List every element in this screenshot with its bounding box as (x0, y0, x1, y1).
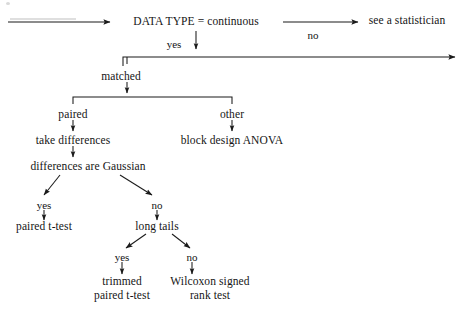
edge-label-no-long-tails: no (187, 251, 198, 263)
node-paired-t-test: paired t-test (16, 220, 72, 233)
node-data-type: DATA TYPE = continuous (133, 15, 258, 28)
edge-longtails-no (172, 234, 190, 248)
flowchart-edges: see a statistician --> down to bracket -… (0, 0, 467, 315)
node-paired: paired (58, 108, 87, 121)
node-block-design-anova: block design ANOVA (181, 134, 284, 147)
node-differences-are-gaussian: differences are Gaussian (30, 160, 145, 173)
edge-label-yes-long-tails: yes (115, 251, 130, 263)
edge-label-no-continuous: no (308, 29, 319, 41)
edge-label-yes-continuous: yes (167, 38, 182, 50)
node-trimmed-paired-t-test-line1: trimmed (94, 275, 150, 289)
edge-split-paired-other (73, 97, 232, 104)
edge-gaussian-no (120, 175, 152, 195)
node-wilcoxon-signed-rank-test-line2: rank test (170, 289, 249, 303)
edge-label-yes-gaussian: yes (37, 199, 52, 211)
node-wilcoxon-signed-rank-test: Wilcoxon signed rank test (170, 275, 249, 302)
edge-bus-main (123, 57, 455, 66)
edge-longtails-yes (126, 234, 146, 248)
edge-label-no-gaussian: no (152, 199, 163, 211)
node-wilcoxon-signed-rank-test-line1: Wilcoxon signed (170, 275, 249, 289)
node-trimmed-paired-t-test-line2: paired t-test (94, 289, 150, 303)
edge-gaussian-yes (44, 175, 60, 195)
node-other: other (220, 108, 244, 121)
node-see-a-statistician: see a statistician (369, 14, 446, 27)
node-take-differences: take differences (36, 134, 111, 147)
node-trimmed-paired-t-test: trimmed paired t-test (94, 275, 150, 302)
flowchart-canvas: see a statistician --> down to bracket -… (0, 0, 467, 315)
node-matched: matched (101, 70, 141, 83)
node-long-tails: long tails (135, 220, 179, 233)
